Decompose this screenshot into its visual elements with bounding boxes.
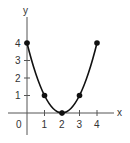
point-4-4 [94, 40, 100, 46]
x-tick-label-4: 4 [94, 119, 100, 130]
origin-label: 0 [16, 119, 22, 130]
parabola-chart: y x 0 1 2 3 4 1 2 3 4 [0, 0, 130, 143]
x-tick-label-1: 1 [42, 119, 48, 130]
x-tick-label-3: 3 [77, 119, 83, 130]
y-tick-label-4: 4 [15, 38, 21, 49]
point-1-1 [42, 93, 48, 99]
y-tick-label-1: 1 [15, 90, 21, 101]
x-tick-label-2: 2 [59, 119, 65, 130]
y-axis-label: y [23, 5, 28, 16]
point-3-1 [77, 93, 83, 99]
y-tick-label-2: 2 [15, 73, 21, 84]
x-axis-label: x [117, 107, 122, 118]
parabola-curve [27, 43, 97, 113]
data-points [24, 40, 100, 116]
point-2-0 [59, 110, 65, 116]
y-tick-label-3: 3 [15, 55, 21, 66]
point-0-4 [24, 40, 30, 46]
